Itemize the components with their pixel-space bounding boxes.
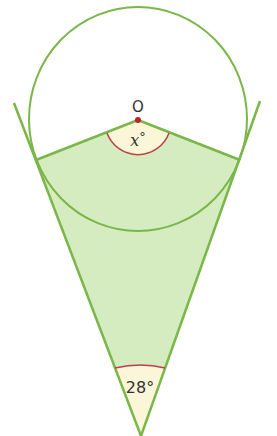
apex-angle-sector [115,366,165,436]
apex-angle-label: 28° [126,378,154,397]
circle-tangent-diagram: O x° 28° [0,0,277,436]
center-point [135,117,141,123]
center-label: O [132,98,144,116]
